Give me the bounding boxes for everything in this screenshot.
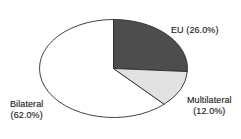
pie-label-multilateral-line1: Multilateral: [187, 95, 232, 106]
pie-label-eu: EU (26.0%): [171, 25, 219, 36]
pie-slices: [40, 20, 188, 118]
pie-label-bilateral: Bilateral (62.0%): [10, 99, 43, 121]
pie-chart: EU (26.0%) Multilateral (12.0%) Bilatera…: [0, 0, 241, 139]
pie-label-eu-line1: EU (26.0%): [171, 25, 219, 36]
pie-label-multilateral-line2: (12.0%): [187, 106, 232, 117]
pie-label-bilateral-line2: (62.0%): [10, 110, 43, 121]
pie-label-bilateral-line1: Bilateral: [10, 99, 43, 110]
pie-label-multilateral: Multilateral (12.0%): [187, 95, 232, 117]
